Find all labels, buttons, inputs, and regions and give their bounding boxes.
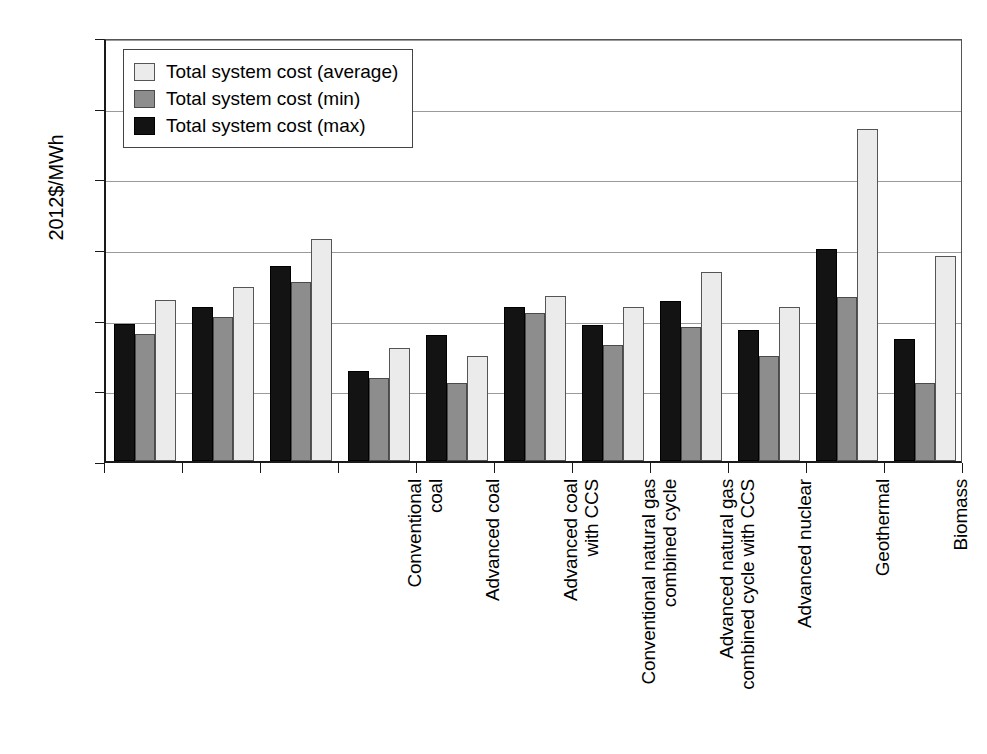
bar-group <box>808 40 886 461</box>
bar-max <box>894 339 915 461</box>
bar-group <box>730 40 808 461</box>
bar-group <box>574 40 652 461</box>
x-tick-mark <box>650 463 651 473</box>
bar-average <box>935 256 956 461</box>
y-tick-mark <box>95 39 104 40</box>
bar-max <box>426 335 447 461</box>
y-tick-mark <box>95 180 104 181</box>
y-tick-mark <box>95 110 104 111</box>
bar-average <box>233 287 254 461</box>
y-tick-mark <box>95 322 104 323</box>
bar-max <box>738 330 759 461</box>
x-category-label: Geothermal <box>872 479 893 729</box>
y-tick-mark <box>95 251 104 252</box>
x-category-label: Advanced natural gas combined cycle with… <box>716 479 759 729</box>
bar-average <box>467 356 488 461</box>
bar-average <box>545 296 566 461</box>
x-category-label: Advanced coal with CCS <box>560 479 603 729</box>
bar-group <box>418 40 496 461</box>
legend-swatch-icon <box>134 63 155 81</box>
bar-max <box>192 307 213 461</box>
y-axis-title: 2012$/MWh <box>45 88 68 288</box>
y-tick-mark <box>95 392 104 393</box>
bar-min <box>291 282 312 461</box>
legend-label: Total system cost (max) <box>166 116 366 135</box>
x-tick-mark <box>884 463 885 473</box>
x-tick-mark <box>728 463 729 473</box>
y-tick-mark <box>95 463 104 464</box>
legend-label: Total system cost (average) <box>166 62 398 81</box>
bar-average <box>623 307 644 461</box>
bar-max <box>348 371 369 461</box>
x-tick-mark <box>806 463 807 473</box>
bar-max <box>582 325 603 461</box>
x-tick-mark <box>260 463 261 473</box>
x-category-label: Conventional coal <box>404 479 447 729</box>
bar-min <box>837 297 858 461</box>
x-tick-mark <box>416 463 417 473</box>
bar-average <box>389 348 410 461</box>
bar-min <box>681 327 702 461</box>
bar-max <box>270 266 291 461</box>
x-tick-mark <box>962 463 963 473</box>
bar-min <box>135 334 156 461</box>
legend-swatch-icon <box>134 117 155 135</box>
x-category-label: Advanced coal <box>482 479 503 729</box>
legend-item: Total system cost (average) <box>134 58 398 85</box>
x-category-label: Biomass <box>950 479 971 729</box>
bar-average <box>779 307 800 461</box>
x-tick-mark <box>572 463 573 473</box>
chart-legend: Total system cost (average)Total system … <box>123 49 413 148</box>
bar-max <box>504 307 525 461</box>
x-tick-mark <box>494 463 495 473</box>
bar-min <box>525 313 546 461</box>
x-tick-mark <box>338 463 339 473</box>
bar-min <box>213 317 234 461</box>
bar-min <box>447 383 468 461</box>
legend-item: Total system cost (max) <box>134 112 398 139</box>
bar-max <box>660 301 681 461</box>
bar-group <box>496 40 574 461</box>
bar-group <box>652 40 730 461</box>
bar-max <box>114 324 135 461</box>
bar-min <box>759 356 780 461</box>
bar-average <box>155 300 176 461</box>
bar-average <box>311 239 332 461</box>
bar-min <box>369 378 390 461</box>
x-tick-mark <box>104 463 105 473</box>
x-category-label: Conventional natural gas combined cycle <box>638 479 681 729</box>
bar-chart-figure: 2012$/MWh 050100150200250300 Conventiona… <box>0 0 987 754</box>
bar-group <box>886 40 964 461</box>
bar-min <box>603 345 624 461</box>
bar-min <box>915 383 936 461</box>
legend-swatch-icon <box>134 90 155 108</box>
bar-average <box>701 272 722 461</box>
x-category-label: Advanced nuclear <box>794 479 815 729</box>
legend-item: Total system cost (min) <box>134 85 398 112</box>
legend-label: Total system cost (min) <box>166 89 360 108</box>
bar-max <box>816 249 837 461</box>
bar-average <box>857 129 878 461</box>
x-tick-mark <box>182 463 183 473</box>
